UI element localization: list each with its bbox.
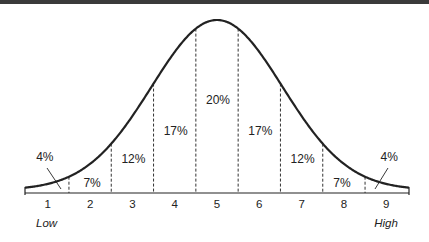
leader-line: [47, 168, 61, 189]
category-tick-label: 5: [214, 198, 220, 210]
low-end-label: Low: [36, 217, 58, 229]
category-tick-label: 8: [341, 198, 347, 210]
value-label: 20%: [206, 93, 230, 107]
value-label: 7%: [83, 176, 101, 190]
value-label: 4%: [381, 150, 399, 164]
value-label: 17%: [248, 124, 272, 138]
category-tick-label: 3: [129, 198, 135, 210]
category-tick-label: 2: [87, 198, 93, 210]
category-tick-label: 6: [256, 198, 262, 210]
value-label: 17%: [164, 124, 188, 138]
value-label: 4%: [36, 150, 54, 164]
category-tick-label: 4: [171, 198, 178, 210]
leader-line: [375, 168, 388, 189]
high-end-label: High: [374, 217, 398, 229]
bell-curve-chart: 4%7%12%17%20%17%12%7%4% 123456789 Low Hi…: [0, 0, 429, 242]
category-tick-label: 9: [383, 198, 389, 210]
value-label: 12%: [121, 152, 145, 166]
value-label: 12%: [291, 152, 315, 166]
value-label: 7%: [333, 176, 351, 190]
category-tick-label: 1: [45, 198, 51, 210]
category-tick-label: 7: [298, 198, 304, 210]
